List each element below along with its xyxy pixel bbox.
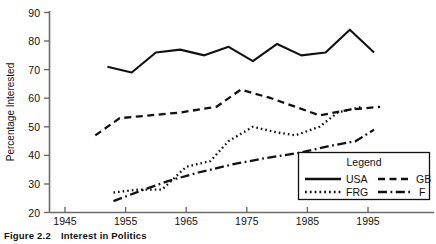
x-ticks (65, 207, 368, 213)
y-tick-label-30: 30 (28, 178, 40, 190)
legend-label-gb: GB (416, 173, 431, 185)
figure-caption-title: Interest in Politics (61, 230, 147, 241)
y-tick-label-80: 80 (28, 35, 40, 47)
legend-label-f: F (419, 186, 425, 198)
x-tick-label-1995: 1995 (356, 215, 380, 227)
line-chart: 90 80 70 60 50 40 30 20 Percentage Inter… (0, 0, 436, 244)
figure-caption-number: Figure 2.2 (4, 230, 51, 241)
y-tick-label-50: 50 (28, 121, 40, 133)
x-tick-label-1955: 1955 (114, 215, 138, 227)
legend-title: Legend (346, 156, 381, 168)
legend-label-frg: FRG (346, 186, 368, 198)
y-tick-label-70: 70 (28, 64, 40, 76)
legend: Legend USA GB FRG F (299, 153, 432, 200)
y-tick-label-40: 40 (28, 149, 40, 161)
y-tick-label-60: 60 (28, 92, 40, 104)
figure-container: 90 80 70 60 50 40 30 20 Percentage Inter… (0, 0, 436, 244)
y-axis-label: Percentage Interested (5, 63, 16, 161)
y-tick-label-90: 90 (28, 7, 40, 19)
x-tick-label-1985: 1985 (296, 215, 320, 227)
x-tick-label-1945: 1945 (53, 215, 77, 227)
y-tick-label-20: 20 (28, 207, 40, 219)
legend-label-usa: USA (346, 173, 368, 185)
x-tick-label-1965: 1965 (175, 215, 199, 227)
x-tick-label-1975: 1975 (235, 215, 259, 227)
figure-caption: Figure 2.2Interest in Politics (4, 230, 147, 241)
series-line-usa (107, 30, 374, 73)
y-ticks (44, 13, 50, 213)
